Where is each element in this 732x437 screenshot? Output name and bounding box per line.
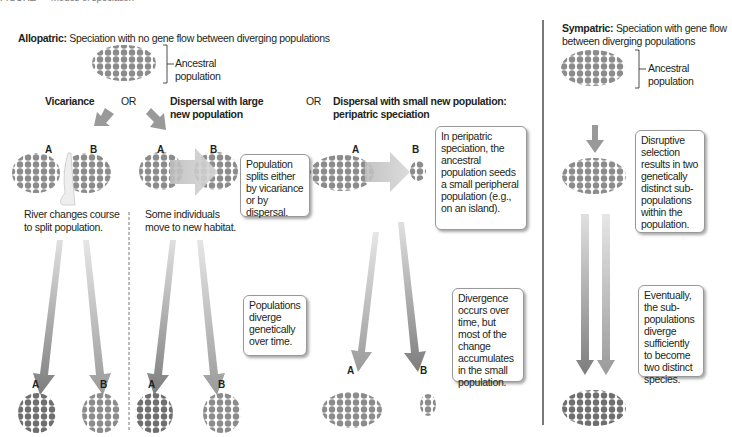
- habitat-caption-line2: move to new habitat.: [145, 221, 236, 234]
- ancestral-label-allopatric: Ancestral population: [175, 57, 220, 82]
- habitat-caption-line1: Some individuals: [145, 208, 236, 221]
- label-a-dispersal: A: [157, 144, 164, 155]
- arrow-dispersal-large: [146, 108, 166, 130]
- label-a-final-peripatric: A: [347, 365, 354, 376]
- or-1: OR: [121, 95, 136, 108]
- label-a-final-dispersal: A: [148, 379, 155, 390]
- mode-dispersal-small: Dispersal with small new population: per…: [333, 95, 507, 120]
- callout-divergence-small: Divergence occurs over time, but most of…: [452, 288, 524, 382]
- ancestral-label-line2: population: [175, 70, 220, 83]
- label-b-vicariance: B: [90, 144, 97, 155]
- ancestral-population-allopatric: [92, 45, 174, 83]
- habitat-caption: Some individuals move to new habitat.: [145, 208, 236, 233]
- mode-dispersal-small-line1: Dispersal with small new population:: [333, 95, 507, 108]
- allopatric-heading: Allopatric: Speciation with no gene flow…: [18, 32, 330, 45]
- callout-peripatric: In peripatric speciation, the ancestral …: [435, 126, 527, 230]
- diverge-arrows-dispersal: [147, 240, 225, 395]
- arrow-vicariance: [94, 108, 114, 126]
- callout-populations-diverge: Populations diverge genetically over tim…: [243, 295, 307, 356]
- label-b-final-vicariance: B: [100, 379, 107, 390]
- diverge-arrows-peripatric: [351, 222, 426, 372]
- arrow-sub-pop-2: [597, 214, 615, 375]
- mode-dispersal-large-line1: Dispersal with large: [170, 95, 263, 108]
- callout-disruptive-selection: Disruptive selection results in two gene…: [635, 130, 705, 233]
- label-b-final-dispersal: B: [218, 379, 225, 390]
- river-caption-line1: River changes course: [24, 208, 120, 221]
- sympatric-heading-bold: Sympatric:: [562, 22, 613, 34]
- mode-dispersal-large-line2: new population: [170, 108, 263, 121]
- population-two-species: [562, 390, 626, 426]
- label-b-peripatric: B: [412, 144, 419, 155]
- callout-population-splits: Population splits either by vicariance o…: [240, 154, 310, 217]
- river-caption: River changes course to split population…: [24, 208, 120, 233]
- mode-dispersal-large: Dispersal with large new population: [170, 95, 263, 120]
- figure-title-cut: FIGURE — Modes of speciation: [0, 0, 134, 5]
- ancestral-label-sympatric: Ancestral population: [648, 62, 693, 87]
- diverge-arrows-vicariance: [33, 240, 111, 395]
- ancestral-label-line1: Ancestral: [175, 57, 220, 70]
- ancestral-population-sympatric: [561, 50, 646, 88]
- population-disruptive: [562, 158, 626, 194]
- callout-eventually: Eventually, the sub-populations diverge …: [638, 285, 704, 377]
- river-caption-line2: to split population.: [24, 221, 120, 234]
- sympatric-ancestral-line1: Ancestral: [648, 62, 693, 75]
- sympatric-heading: Sympatric: Speciation with gene flow bet…: [562, 22, 732, 47]
- label-b-final-peripatric: B: [420, 365, 427, 376]
- allopatric-heading-bold: Allopatric:: [18, 32, 67, 44]
- label-a-peripatric: A: [352, 144, 359, 155]
- allopatric-heading-rest: Speciation with no gene flow between div…: [67, 32, 330, 44]
- dispersal-arrow-small: [365, 152, 410, 192]
- label-a-final-vicariance: A: [32, 379, 39, 390]
- mode-vicariance: Vicariance: [45, 95, 94, 108]
- arrow-disruptive: [586, 125, 604, 153]
- arrow-sub-pop-1: [576, 214, 594, 375]
- or-2: OR: [306, 95, 321, 108]
- label-b-dispersal: B: [210, 144, 217, 155]
- label-a-vicariance: A: [45, 144, 52, 155]
- mode-dispersal-small-line2: peripatric speciation: [333, 108, 507, 121]
- sympatric-ancestral-line2: population: [648, 75, 693, 88]
